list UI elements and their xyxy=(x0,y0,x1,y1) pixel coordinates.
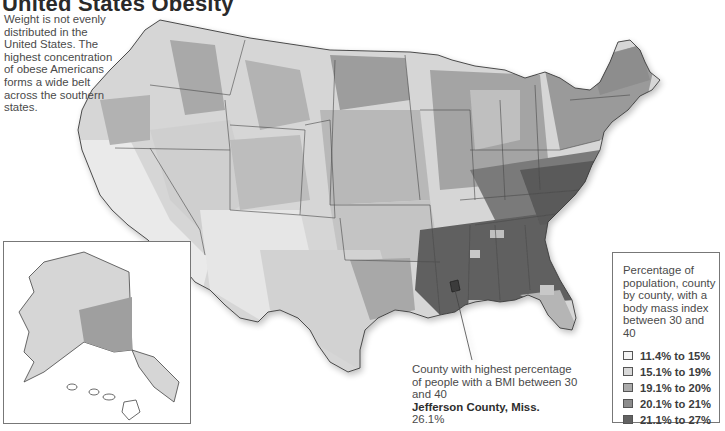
legend-swatch xyxy=(623,351,633,360)
legend-swatch xyxy=(623,367,633,376)
callout-value: 26.1% xyxy=(412,413,582,426)
legend-item: 15.1% to 19% xyxy=(623,364,719,380)
callout-text: County with highest percentage of people… xyxy=(412,363,582,401)
callout-county-name: Jefferson County, Miss. xyxy=(412,401,582,414)
legend-title: Percentage of population, county by coun… xyxy=(623,264,719,340)
legend-label: 11.4% to 15% xyxy=(640,350,710,362)
alaska-hawaii-map xyxy=(4,242,190,423)
legend-label: 19.1% to 20% xyxy=(640,382,711,394)
legend: Percentage of population, county by coun… xyxy=(612,252,720,423)
legend-item: 19.1% to 20% xyxy=(623,380,719,396)
legend-item: 20.1% to 21% xyxy=(623,396,719,412)
highest-county-callout: County with highest percentage of people… xyxy=(412,363,582,426)
legend-label: 20.1% to 21% xyxy=(640,398,711,410)
legend-item: 21.1% to 27% xyxy=(623,412,719,428)
legend-swatch xyxy=(623,399,633,408)
legend-label: 21.1% to 27% xyxy=(640,414,711,426)
legend-item: 11.4% to 15% xyxy=(623,348,719,364)
legend-label: 15.1% to 19% xyxy=(640,366,711,378)
legend-swatch xyxy=(623,383,633,392)
alaska-hawaii-inset xyxy=(3,241,191,424)
legend-swatch xyxy=(623,415,633,424)
intro-text: Weight is not evenly distributed in the … xyxy=(4,13,122,114)
alaska-panhandle xyxy=(132,350,179,402)
legend-items: 11.4% to 15%15.1% to 19%19.1% to 20%20.1… xyxy=(623,348,719,428)
hawaii-islands xyxy=(67,384,140,420)
